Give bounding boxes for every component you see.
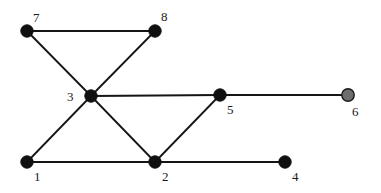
graph-node-label-6: 6 [352, 105, 359, 118]
graph-node-label-7: 7 [33, 11, 40, 24]
graph-node-7[interactable] [21, 25, 33, 37]
graph-edge-2-5 [155, 95, 220, 162]
graph-node-label-2: 2 [162, 170, 169, 183]
graph-node-2[interactable] [149, 156, 161, 168]
graph-node-label-4: 4 [292, 170, 299, 183]
graph-edge-8-3 [91, 31, 155, 96]
graph-node-8[interactable] [149, 25, 161, 37]
graph-node-label-8: 8 [161, 10, 168, 23]
graph-node-4[interactable] [279, 156, 291, 168]
graph-edge-3-5 [91, 95, 220, 96]
graph-edge-7-3 [27, 31, 91, 96]
graph-edge-3-1 [27, 96, 91, 162]
graph-diagram: 12345678 [0, 0, 381, 193]
graph-canvas-svg [0, 0, 381, 193]
edge-layer [27, 31, 348, 162]
graph-node-5[interactable] [214, 89, 226, 101]
graph-node-1[interactable] [21, 156, 33, 168]
graph-edge-3-2 [91, 96, 155, 162]
graph-node-label-5: 5 [227, 103, 234, 116]
graph-node-label-3: 3 [67, 90, 74, 103]
graph-node-6[interactable] [342, 89, 354, 101]
graph-node-label-1: 1 [34, 170, 41, 183]
graph-node-3[interactable] [85, 90, 97, 102]
